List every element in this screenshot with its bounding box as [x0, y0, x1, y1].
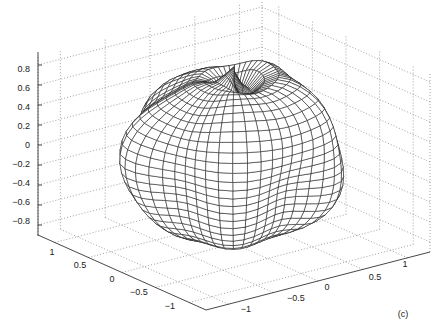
x-tick-label: −1: [241, 304, 251, 314]
x-tick-label: −0.5: [287, 293, 305, 303]
y-tick-label: 0: [109, 274, 114, 284]
y-tick-label: 0.5: [74, 260, 87, 270]
z-tick-label: −0.6: [12, 197, 30, 207]
z-tick-label: −0.2: [12, 159, 30, 169]
y-tick-label: −0.5: [130, 287, 148, 297]
z-tick-label: −0.8: [12, 216, 30, 226]
wireframe-surface: [120, 61, 344, 250]
y-tick-label: −1: [165, 301, 175, 311]
x-tick-label: 0.5: [369, 272, 382, 282]
right-axis-tick-labels: −1 −0.5 0 0.5 1: [241, 259, 408, 314]
z-tick-label: 0.2: [17, 121, 30, 131]
left-axis-tick-labels: 1 0.5 0 −0.5 −1: [49, 247, 175, 311]
z-tick-label: 0: [25, 140, 30, 150]
z-tick-label: 0.8: [17, 64, 30, 74]
z-tick-label: 0.6: [17, 83, 30, 93]
x-tick-label: 1: [402, 259, 407, 269]
panel-label: (c): [398, 309, 409, 319]
x-tick-label: 0: [324, 282, 329, 292]
surface-plot-figure: 0.8 0.6 0.4 0.2 0 −0.2 −0.4 −0.6 −0.8 1 …: [0, 0, 438, 331]
z-tick-label: −0.4: [12, 178, 30, 188]
z-tick-label: 0.4: [17, 102, 30, 112]
plot-canvas: 0.8 0.6 0.4 0.2 0 −0.2 −0.4 −0.6 −0.8 1 …: [0, 0, 438, 331]
z-axis-tick-labels: 0.8 0.6 0.4 0.2 0 −0.2 −0.4 −0.6 −0.8: [12, 64, 30, 226]
y-tick-label: 1: [49, 247, 54, 257]
